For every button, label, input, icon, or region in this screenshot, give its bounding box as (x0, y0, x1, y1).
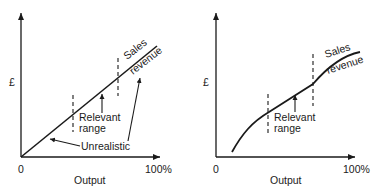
unrealistic-upper-arrow-icon (128, 78, 140, 141)
diagram-canvas: £ 0 100% Output Sales revenue Relevant r… (0, 0, 375, 196)
graph-curved: £ 0 100% Output Sales revenue Relevant r… (203, 13, 370, 186)
x-axis-label: Output (270, 174, 302, 186)
x-end-label: 100% (145, 163, 172, 175)
x-start-label: 0 (213, 163, 219, 175)
x-end-label: 100% (343, 163, 370, 175)
annotation-unrealistic: Unrealistic (81, 140, 130, 152)
range-label-range: range (79, 122, 106, 134)
y-axis-label: £ (203, 76, 209, 88)
unrealistic-lower-arrow-icon (50, 139, 80, 146)
range-label-range: range (274, 122, 301, 134)
x-axis-label: Output (74, 174, 106, 186)
x-start-label: 0 (18, 163, 24, 175)
y-axis-label: £ (9, 76, 15, 88)
graph-linear: £ 0 100% Output Sales revenue Relevant r… (9, 13, 172, 186)
